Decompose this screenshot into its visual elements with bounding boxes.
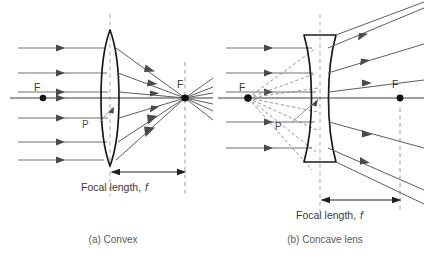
concave-panel-caption: (b) Concave lens	[287, 234, 363, 245]
concave-label-focal-right: F	[392, 78, 398, 90]
concave-label-focal-left: F	[239, 81, 245, 93]
convex-focal-length-dimension	[111, 169, 187, 175]
convex-pole-leader-arrow	[109, 107, 115, 114]
convex-focal-length-label: Focal length,	[81, 181, 141, 193]
concave-focal-length-symbol: f	[360, 209, 364, 221]
concave-focal-length-label: Focal length,	[296, 209, 356, 221]
concave-pole-leader-line	[292, 101, 316, 122]
diagram-canvas: F F P Focal length, f (a) Convex	[0, 0, 426, 257]
convex-focal-point-left	[40, 95, 47, 102]
panel-convex: F F P Focal length, f (a) Convex	[10, 14, 213, 245]
panel-concave: F F P Focal length, f (b) Concave lens	[218, 2, 424, 245]
convex-incoming-rays	[18, 45, 108, 164]
convex-panel-caption: (a) Convex	[89, 234, 138, 245]
convex-focal-point-right	[181, 94, 188, 101]
convex-focal-length-symbol: f	[145, 181, 149, 193]
concave-focal-point-right	[397, 95, 404, 102]
concave-focal-point-left	[244, 94, 252, 102]
concave-focal-length-dimension	[321, 197, 402, 203]
convex-refracted-rays	[116, 48, 185, 160]
convex-diverging-after-focus	[185, 78, 213, 120]
concave-refracted-rays	[328, 8, 424, 190]
concave-pole-leader-arrow	[312, 99, 319, 107]
convex-label-pole: P	[82, 119, 89, 130]
convex-label-focal-left: F	[34, 81, 40, 93]
concave-label-pole: P	[275, 121, 282, 132]
convex-axis-arrow	[56, 95, 65, 102]
convex-label-focal-right: F	[177, 78, 183, 90]
concave-edge-rays	[336, 2, 424, 204]
lens-ray-diagram-figure: F F P Focal length, f (a) Convex	[0, 0, 426, 257]
